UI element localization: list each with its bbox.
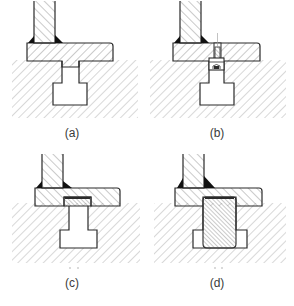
filler-block [203,197,236,248]
diagram-canvas [0,0,294,306]
weld-fillet-left [177,178,183,188]
panel-label-c: (c) [52,276,92,290]
panel-d [154,151,286,269]
weld-fillet-left [174,36,180,43]
panel-label-b: (b) [197,126,237,140]
panel-c [12,151,140,269]
panel-label-a: (a) [52,126,92,140]
ground-block [12,60,138,118]
weld-fillet-right [201,35,209,43]
vertical-post [34,0,55,43]
weld-fillet-right [55,35,63,43]
vertical-post [183,153,204,188]
weld-fillet-right [63,181,72,188]
panel-b [150,0,286,118]
weld-fillet-left [36,181,42,188]
weld-fillet-right [204,176,215,188]
vertical-post [42,153,63,188]
panel-label-d: (d) [197,276,237,290]
vertical-post [180,0,201,43]
weld-fillet-left [28,36,34,43]
panel-a [12,0,138,118]
ground-block [12,203,140,263]
